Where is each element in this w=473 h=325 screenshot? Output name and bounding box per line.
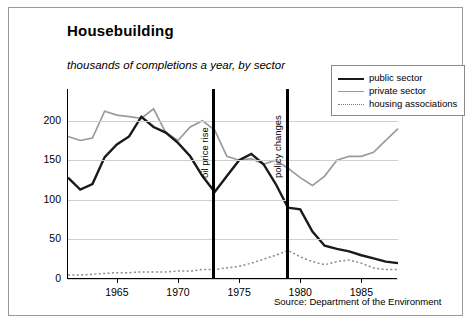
gridline-y [68, 239, 398, 240]
gridline-y [68, 200, 398, 201]
chart-axes: 05010015020019651970197519801985 [67, 89, 397, 279]
gridline-y [68, 160, 398, 161]
y-axis-tick-label: 100 [21, 193, 61, 205]
legend-item-public-sector: public sector [338, 71, 458, 84]
x-axis-tick [361, 278, 362, 283]
x-axis-tick-label: 1970 [166, 286, 189, 298]
chart-plot-area: 05010015020019651970197519801985 oil pri… [67, 89, 397, 279]
y-axis-tick-label: 50 [21, 232, 61, 244]
x-axis-tick-label: 1975 [227, 286, 250, 298]
annotation-line-2 [286, 89, 289, 279]
x-axis-tick [239, 278, 240, 283]
y-axis-tick-label: 200 [21, 114, 61, 126]
annotation-label-1: oil price rise [199, 127, 210, 178]
x-axis-tick [300, 278, 301, 283]
gridline-y [68, 121, 398, 122]
y-axis-tick-label: 150 [21, 153, 61, 165]
annotation-label-2: policy changes [272, 115, 283, 178]
x-axis-tick [117, 278, 118, 283]
chart-card: Housebuilding thousands of completions a… [8, 7, 463, 316]
annotation-line-1 [212, 89, 215, 279]
chart-source-note: Source: Department of the Environment [274, 296, 441, 307]
chart-subtitle: thousands of completions a year, by sect… [67, 59, 285, 71]
page-title: Housebuilding [67, 22, 174, 39]
chart-series-layer [68, 89, 398, 279]
y-axis-tick-label: 0 [21, 272, 61, 284]
legend-label-public-sector: public sector [369, 72, 422, 83]
line-housing-associations [68, 251, 398, 276]
x-axis-tick [178, 278, 179, 283]
line-public-sector [68, 117, 398, 263]
x-axis-tick-label: 1965 [105, 286, 128, 298]
legend-swatch-public-sector [338, 73, 364, 83]
